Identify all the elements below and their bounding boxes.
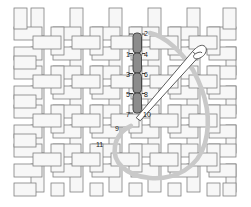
- stitch-segment: [133, 73, 142, 93]
- stitch-label: 3: [126, 71, 130, 78]
- stitch-label: 2: [144, 30, 148, 37]
- stitch-diagram-figure: 2 1 4 3 6 5 8 7 10 9 11: [0, 0, 251, 207]
- stitch-label: 11: [96, 141, 103, 148]
- diagram-svg: 2 1 4 3 6 5 8 7 10 9 11: [0, 0, 251, 207]
- stitch-label: 9: [115, 125, 119, 132]
- stitch-label: 1: [126, 51, 130, 58]
- stitch-label: 10: [143, 111, 151, 118]
- stitch-segment: [133, 93, 142, 113]
- stitch-label: 7: [126, 111, 130, 118]
- stitch-label: 4: [144, 51, 148, 58]
- stitch-label: 5: [126, 91, 130, 98]
- stitch-segment: [133, 33, 142, 53]
- stitch-label: 6: [144, 71, 148, 78]
- stitch-label: 8: [144, 91, 148, 98]
- stitch-segment: [133, 53, 142, 73]
